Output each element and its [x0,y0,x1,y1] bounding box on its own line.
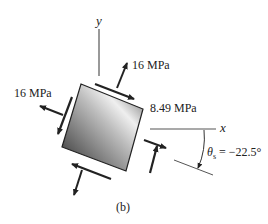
shear-arrow-bottom-icon [72,164,111,179]
angle-value: = −22.5° [216,145,262,159]
top-normal-stress-label: 16 MPa [132,58,170,72]
stress-element-diagram: y x θs = −22.5° 16 MPa 16 MPa 8.49 MPa (… [0,0,268,224]
rotated-axis-line [174,160,213,175]
normal-arrow-left-icon [40,106,63,115]
shear-stress-label: 8.49 MPa [150,101,197,115]
normal-arrow-top-icon [117,63,127,88]
diagram-svg: y x θs = −22.5° 16 MPa 16 MPa 8.49 MPa (… [0,0,268,224]
x-axis-label: x [219,120,226,135]
angle-label: θs = −22.5° [207,145,262,161]
left-normal-stress-label: 16 MPa [14,86,52,100]
figure-caption: (b) [116,200,130,214]
normal-arrow-bottom-icon [74,170,82,195]
normal-arrow-right-icon [144,140,166,148]
angle-arc-arrow-icon [198,130,204,168]
y-axis-label: y [94,13,102,28]
shear-arrow-right-icon [150,146,157,173]
